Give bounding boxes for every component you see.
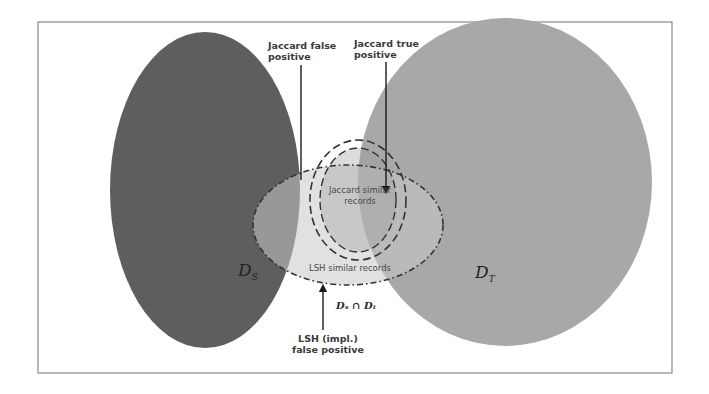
lsh-false-positive-label: LSH (impl.) false positive xyxy=(292,333,364,355)
lsh-false-positive-line1: LSH (impl.) xyxy=(292,333,364,344)
set-dt-main: D xyxy=(475,262,489,282)
intersection-label: Dₛ ∩ Dₜ xyxy=(336,300,376,311)
set-dt-sub: T xyxy=(489,274,495,284)
lsh-similar-label: LSH similar records xyxy=(300,263,400,274)
jaccard-similar-line1: Jaccard similar xyxy=(315,185,405,196)
set-dt-label: DT xyxy=(475,262,495,284)
jaccard-true-positive-line2: positive xyxy=(354,49,419,60)
jaccard-false-positive-line1: Jaccard false xyxy=(268,40,336,51)
lsh-false-positive-line2: false positive xyxy=(292,344,364,355)
jaccard-similar-label: Jaccard similar records xyxy=(315,185,405,207)
set-ds-main: D xyxy=(238,260,252,280)
jaccard-false-positive-line2: positive xyxy=(268,51,336,62)
jaccard-false-positive-label: Jaccard false positive xyxy=(268,40,336,62)
jaccard-true-positive-line1: Jaccard true xyxy=(354,38,419,49)
jaccard-true-positive-label: Jaccard true positive xyxy=(354,38,419,60)
jaccard-similar-line2: records xyxy=(315,196,405,207)
set-ds-sub: S xyxy=(252,272,258,282)
set-ds-label: DS xyxy=(238,260,258,282)
